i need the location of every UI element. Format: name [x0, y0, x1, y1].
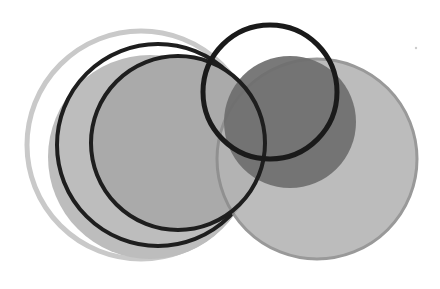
overlapping-circles-illustration: [0, 0, 440, 289]
circles-artwork: [0, 0, 440, 289]
faint-speck: [415, 47, 417, 49]
